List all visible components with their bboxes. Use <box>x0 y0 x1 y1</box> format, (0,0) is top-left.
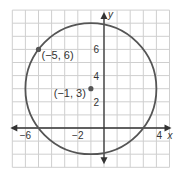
x-tick-label: −6 <box>20 130 32 141</box>
circle-graph: x y −6−24246 (−5, 6)(−1, 3) <box>0 0 179 175</box>
point-marker <box>36 47 41 52</box>
y-tick-label: 6 <box>93 44 99 55</box>
point-marker <box>88 86 93 91</box>
x-tick-label: 4 <box>157 130 163 141</box>
x-axis-arrow-left <box>10 125 17 132</box>
point-label: (−1, 3) <box>54 87 86 99</box>
x-axis-label: x <box>167 130 174 141</box>
x-tick-label: −2 <box>72 130 84 141</box>
point-label: (−5, 6) <box>42 49 74 61</box>
y-tick-label: 2 <box>93 97 99 108</box>
y-axis-arrow-down <box>101 157 108 164</box>
y-axis-label: y <box>107 9 114 20</box>
y-axis-arrow-up <box>101 12 108 19</box>
y-tick-label: 4 <box>93 71 99 82</box>
